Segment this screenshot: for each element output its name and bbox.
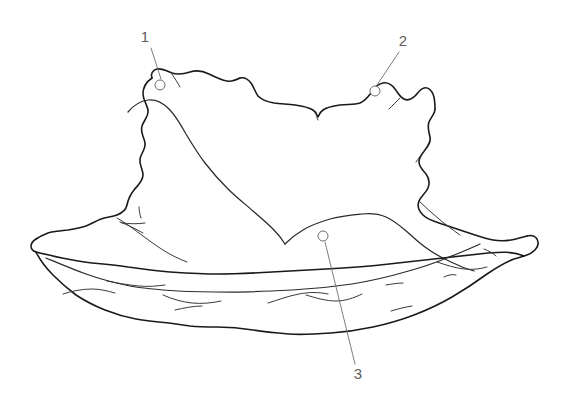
callout-marker-1 bbox=[155, 80, 165, 90]
callout-marker-3 bbox=[318, 231, 328, 241]
line-drawing-illustration: 1 2 3 bbox=[0, 0, 566, 418]
callout-marker-2 bbox=[370, 86, 380, 96]
callout-label-2: 2 bbox=[399, 32, 407, 49]
callout-label-1: 1 bbox=[141, 28, 149, 45]
callout-label-3: 3 bbox=[354, 365, 362, 382]
canvas-background bbox=[0, 0, 566, 418]
figure-container: 1 2 3 bbox=[0, 0, 566, 418]
